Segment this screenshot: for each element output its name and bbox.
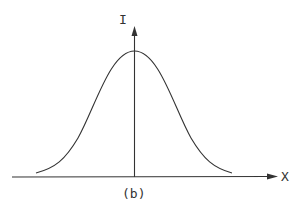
gaussian-plot [0, 0, 302, 211]
x-axis-label: X [281, 170, 289, 183]
y-axis-label: I [119, 13, 127, 26]
figure-caption: (b) [122, 187, 145, 200]
x-axis-arrowhead-icon [267, 174, 278, 180]
figure-canvas: I X (b) [0, 0, 302, 211]
x-axis [12, 177, 272, 178]
y-axis-arrowhead-icon [132, 26, 138, 36]
